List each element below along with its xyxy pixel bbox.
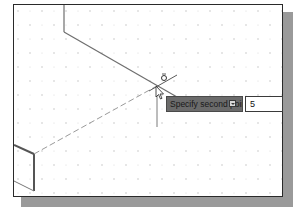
drawing-stage: Specify second point or 5 bbox=[0, 0, 307, 223]
dropdown-arrow-icon[interactable] bbox=[229, 100, 236, 107]
dynamic-input-field[interactable]: 5 bbox=[245, 96, 283, 112]
